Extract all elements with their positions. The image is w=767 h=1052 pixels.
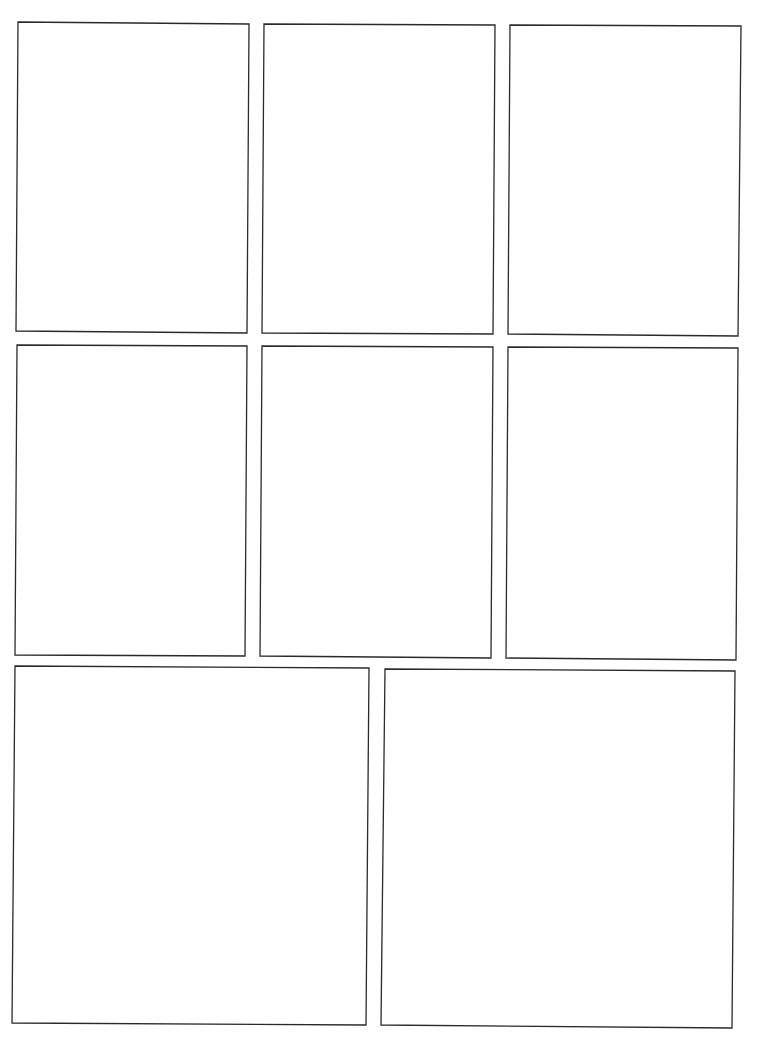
comic-panel-1 [16,22,249,333]
comic-panel-5 [260,346,493,658]
comic-panel-7 [12,666,369,1025]
comic-panel-3 [508,25,741,336]
comic-panel-2 [262,24,495,334]
panel-layout [0,0,767,1052]
comic-panel-4 [15,345,247,656]
comic-page-template [0,0,767,1052]
comic-panel-8 [381,669,735,1028]
comic-panel-6 [506,347,738,660]
